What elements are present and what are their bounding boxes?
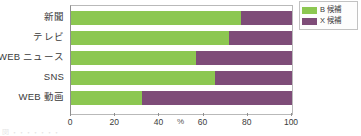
bar-segment[interactable]: [241, 11, 292, 25]
caption-fragment: 図 ・・・・・・・: [2, 127, 60, 135]
category-label: WEB ニュース: [0, 50, 64, 64]
plot-area: [70, 5, 293, 115]
legend-label: B 候補: [320, 5, 341, 15]
category-label: WEB 動画: [19, 90, 64, 104]
axis-tick-label: 80: [242, 117, 251, 127]
axis-tick-label: 100: [284, 117, 298, 127]
bar-segment[interactable]: [142, 91, 292, 105]
axis-tick-label: 40: [154, 117, 163, 127]
category-axis: 新聞テレビWEB ニュースSNSWEB 動画: [0, 5, 68, 113]
table-row[interactable]: [71, 91, 292, 105]
bar-segment[interactable]: [71, 91, 142, 105]
table-row[interactable]: [71, 31, 292, 45]
bar-segment[interactable]: [71, 51, 196, 65]
table-row[interactable]: [71, 11, 292, 25]
legend-swatch: [302, 7, 317, 14]
table-row[interactable]: [71, 51, 292, 65]
axis-tick-mark: [247, 113, 248, 116]
axis-tick-mark: [70, 113, 71, 116]
legend-label: X 候補: [320, 16, 341, 26]
bar-segment[interactable]: [229, 31, 292, 45]
category-label: SNS: [44, 70, 64, 84]
bar-segment[interactable]: [71, 71, 215, 85]
axis-tick-mark: [158, 113, 159, 116]
stacked-bar-chart: 新聞テレビWEB ニュースSNSWEB 動画 % 020406080100 B …: [0, 0, 361, 136]
axis-tick-label: 20: [109, 117, 118, 127]
axis-tick-label: 60: [198, 117, 207, 127]
bar-segment[interactable]: [215, 71, 292, 85]
legend-item[interactable]: B 候補: [302, 5, 355, 15]
legend-swatch: [302, 18, 317, 25]
axis-tick-mark: [114, 113, 115, 116]
axis-tick-label: 0: [68, 117, 73, 127]
axis-unit-label: %: [177, 117, 184, 126]
axis-tick-mark: [291, 113, 292, 116]
table-row[interactable]: [71, 71, 292, 85]
bar-segment[interactable]: [71, 11, 241, 25]
legend: B 候補X 候補: [299, 1, 358, 30]
bar-segment[interactable]: [196, 51, 292, 65]
legend-item[interactable]: X 候補: [302, 16, 355, 26]
bar-segment[interactable]: [71, 31, 229, 45]
category-label: 新聞: [44, 10, 64, 24]
category-label: テレビ: [33, 30, 64, 44]
axis-tick-mark: [203, 113, 204, 116]
value-axis: % 020406080100: [70, 113, 292, 133]
